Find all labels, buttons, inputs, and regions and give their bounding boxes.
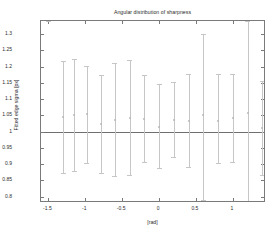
- data-point-marker: [62, 116, 64, 118]
- y-tick-mark: [261, 197, 264, 198]
- data-point-marker: [247, 112, 249, 114]
- x-tick-label: -1: [82, 205, 86, 211]
- errorbar-cap: [61, 61, 66, 62]
- y-tick-mark: [41, 34, 44, 35]
- errorbar-whisker: [203, 34, 204, 200]
- y-tick-mark: [41, 67, 44, 68]
- data-point-marker: [100, 123, 102, 125]
- errorbar-cap: [171, 157, 176, 158]
- y-tick-mark: [261, 50, 264, 51]
- data-point-marker: [114, 119, 116, 121]
- data-point-marker: [173, 119, 175, 121]
- y-tick-mark: [261, 67, 264, 68]
- y-tick-mark: [41, 164, 44, 165]
- x-tick-label: -0.5: [117, 205, 126, 211]
- errorbar-cap: [201, 34, 206, 35]
- x-tick-label: -1.5: [43, 205, 52, 211]
- errorbar-cap: [230, 74, 235, 75]
- y-tick-mark: [41, 180, 44, 181]
- errorbar-cap: [127, 175, 132, 176]
- errorbar-cap: [142, 75, 147, 76]
- errorbar-cap: [127, 60, 132, 61]
- y-tick-mark: [261, 34, 264, 35]
- y-tick-mark: [261, 180, 264, 181]
- errorbar-cap: [99, 173, 104, 174]
- errorbar-cap: [216, 74, 221, 75]
- x-tick-mark: [85, 198, 86, 201]
- errorbar-cap: [186, 74, 191, 75]
- errorbar-cap: [61, 173, 66, 174]
- x-tick-mark: [85, 21, 86, 24]
- x-tick-mark: [196, 21, 197, 24]
- errorbar-cap: [112, 176, 117, 177]
- x-tick-label: 0: [157, 205, 160, 211]
- data-point-marker: [261, 127, 263, 129]
- data-point-marker: [202, 114, 204, 116]
- y-tick-mark: [41, 50, 44, 51]
- figure-canvas: Angular distribution of sharpness Fitted…: [0, 0, 279, 239]
- errorbar-cap: [171, 82, 176, 83]
- x-tick-mark: [233, 198, 234, 201]
- x-tick-mark: [122, 198, 123, 201]
- y-tick-mark: [41, 99, 44, 100]
- data-point-marker: [232, 117, 234, 119]
- errorbar-whisker: [218, 74, 219, 163]
- errorbar-cap: [230, 162, 235, 163]
- data-point-marker: [129, 117, 131, 119]
- y-tick-mark: [41, 197, 44, 198]
- errorbar-cap: [260, 175, 265, 176]
- x-tick-label: 1: [230, 205, 233, 211]
- x-tick-label: 0.5: [191, 205, 198, 211]
- errorbar-cap: [186, 167, 191, 168]
- x-tick-mark: [48, 198, 49, 201]
- errorbar-cap: [112, 63, 117, 64]
- errorbar-cap: [157, 168, 162, 169]
- data-point-marker: [158, 126, 160, 128]
- errorbar-cap: [201, 200, 206, 201]
- plot-area: [40, 20, 265, 202]
- errorbar-cap: [157, 84, 162, 85]
- errorbar-cap: [142, 162, 147, 163]
- x-tick-mark: [196, 198, 197, 201]
- errorbar-cap: [72, 171, 77, 172]
- errorbar-cap: [84, 163, 89, 164]
- y-tick-mark: [41, 132, 44, 133]
- data-point-marker: [86, 113, 88, 115]
- errorbar-cap: [216, 163, 221, 164]
- errorbar-cap: [72, 59, 77, 60]
- data-point-marker: [217, 120, 219, 122]
- errorbar-cap: [99, 75, 104, 76]
- x-tick-mark: [159, 21, 160, 24]
- data-point-marker: [47, 20, 49, 22]
- x-tick-mark: [159, 198, 160, 201]
- y-tick-mark: [41, 115, 44, 116]
- x-tick-mark: [122, 21, 123, 24]
- x-tick-mark: [233, 21, 234, 24]
- errorbar-cap: [84, 66, 89, 67]
- data-point-marker: [73, 114, 75, 116]
- data-point-marker: [143, 118, 145, 120]
- y-tick-mark: [41, 83, 44, 84]
- data-point-marker: [188, 120, 190, 122]
- errorbar-cap: [260, 81, 265, 82]
- errorbar-cap: [245, 21, 250, 22]
- y-tick-mark: [41, 148, 44, 149]
